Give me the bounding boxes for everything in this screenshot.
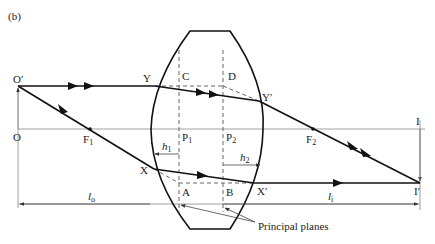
ray-arrow-icon [196, 88, 206, 96]
panel-label: (b) [8, 10, 21, 23]
label-principal-planes: Principal planes [258, 220, 329, 232]
label-principal-2: P2 [226, 131, 236, 145]
label-focal-1: F1 [83, 133, 93, 147]
label-focal-2: F2 [306, 133, 316, 147]
label-h2: h2 [240, 151, 250, 165]
ray-arrow-icon [58, 104, 68, 114]
ray-arrow-icon [84, 82, 94, 90]
thick-lens-ray-diagram: (b) O′ O F1 F2 [0, 0, 435, 244]
callout-leader-1 [181, 205, 255, 222]
label-h1: h1 [162, 140, 172, 154]
focal-point-2 [311, 127, 315, 131]
ray-arrow-icon [347, 141, 358, 150]
label-B: B [226, 186, 233, 198]
ray-arrow-icon [333, 179, 343, 187]
label-D: D [228, 70, 236, 82]
focal-point-1 [88, 127, 92, 131]
label-Y-prime: Y′ [262, 91, 272, 103]
label-X: X [140, 164, 148, 176]
ray-arrow-icon [209, 90, 219, 98]
label-A: A [182, 186, 190, 198]
label-object-base: O [13, 131, 21, 143]
label-image-base: I [416, 115, 420, 127]
ray-arrow-icon [360, 148, 371, 157]
label-object-tip: O′ [13, 73, 23, 85]
ray-upper-internal [155, 86, 259, 101]
ray-lower-incident [18, 86, 154, 169]
label-object-distance: lo [88, 190, 95, 204]
callout-leader-2 [225, 208, 255, 222]
label-X-prime: X′ [257, 185, 267, 197]
ray-upper-emergent [259, 101, 420, 183]
label-Y: Y [143, 72, 151, 84]
label-image-tip: I′ [414, 185, 420, 197]
ray-arrow-icon [197, 171, 208, 179]
label-principal-1: P1 [182, 131, 192, 145]
label-image-distance: li [328, 190, 334, 204]
ray-arrow-icon [68, 82, 78, 90]
thick-lens [151, 31, 263, 229]
label-C: C [182, 70, 189, 82]
